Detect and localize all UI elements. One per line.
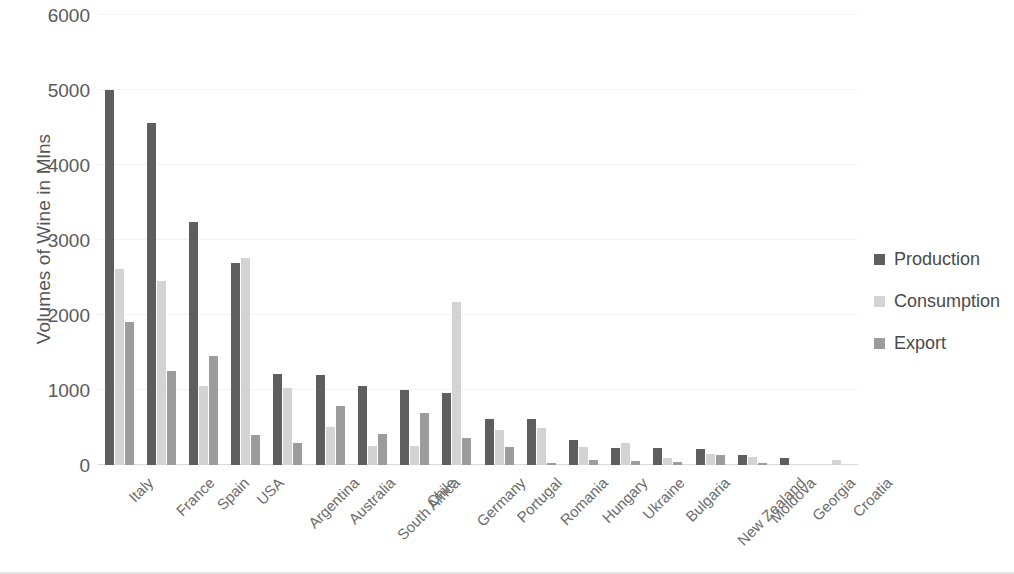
bar — [462, 438, 471, 465]
x-axis-label: Croatia — [849, 474, 895, 520]
bar — [273, 374, 282, 466]
bar-group — [351, 15, 393, 465]
bar — [611, 448, 620, 465]
bar — [780, 458, 789, 466]
bar-group — [478, 15, 520, 465]
bar-group — [562, 15, 604, 465]
x-label-cell: New Zealand — [689, 468, 731, 574]
bar-group — [605, 15, 647, 465]
bar — [505, 447, 514, 465]
bar — [420, 413, 429, 466]
x-axis-category-labels: ItalyFranceSpainUSAArgentinaAustraliaSou… — [98, 468, 858, 574]
bar — [358, 386, 367, 466]
x-label-cell: Georgia — [774, 468, 816, 574]
bar — [653, 448, 662, 465]
bar — [589, 460, 598, 465]
bar-group — [731, 15, 773, 465]
legend-swatch-icon — [874, 296, 885, 307]
bar — [368, 446, 377, 466]
bar — [527, 419, 536, 466]
bar-group — [225, 15, 267, 465]
legend-item[interactable]: Consumption — [874, 280, 1014, 322]
bar — [167, 371, 176, 465]
bar — [673, 462, 682, 465]
legend-label: Consumption — [894, 291, 1000, 312]
legend-swatch-icon — [874, 254, 885, 265]
bar-group — [689, 15, 731, 465]
x-label-cell: Hungary — [562, 468, 604, 574]
x-label-cell: Romania — [520, 468, 562, 574]
bar — [716, 455, 725, 466]
x-label-cell: Australia — [309, 468, 351, 574]
y-tick-label: 4000 — [28, 156, 90, 175]
bar-group — [436, 15, 478, 465]
bar — [231, 263, 240, 466]
bar — [316, 375, 325, 465]
legend-label: Export — [894, 333, 946, 354]
bar — [189, 222, 198, 465]
bar — [336, 406, 345, 465]
y-tick-label: 3000 — [28, 231, 90, 250]
x-label-cell: USA — [225, 468, 267, 574]
bar-group — [774, 15, 816, 465]
bar — [696, 449, 705, 465]
bar — [442, 393, 451, 465]
bar — [326, 427, 335, 465]
legend-item[interactable]: Export — [874, 322, 1014, 364]
x-label-cell: Germany — [436, 468, 478, 574]
bar — [663, 458, 672, 465]
y-tick-label: 1000 — [28, 381, 90, 400]
bar — [485, 419, 494, 466]
bar-group — [267, 15, 309, 465]
y-tick-label: 5000 — [28, 81, 90, 100]
bar — [293, 443, 302, 465]
y-tick-label: 0 — [28, 456, 90, 475]
x-label-cell: Moldova — [731, 468, 773, 574]
bar-group — [98, 15, 140, 465]
bar — [115, 269, 124, 466]
bar — [125, 322, 134, 465]
bar — [283, 388, 292, 465]
bar — [706, 454, 715, 465]
chart-legend: ProductionConsumptionExport — [874, 238, 1014, 364]
bar-group — [520, 15, 562, 465]
bar — [452, 302, 461, 465]
bar — [410, 446, 419, 465]
bar-group — [182, 15, 224, 465]
legend-swatch-icon — [874, 338, 885, 349]
legend-item[interactable]: Production — [874, 238, 1014, 280]
bar — [748, 457, 757, 465]
bar — [495, 430, 504, 465]
x-label-cell: Chile — [394, 468, 436, 574]
bar-group — [394, 15, 436, 465]
bar — [157, 281, 166, 465]
x-label-cell: South Africa — [351, 468, 393, 574]
bar — [738, 455, 747, 466]
bar-group — [140, 15, 182, 465]
bar — [758, 463, 767, 465]
bar-groups — [98, 15, 858, 465]
x-label-cell: Croatia — [816, 468, 858, 574]
x-label-cell: Portugal — [478, 468, 520, 574]
bar — [631, 461, 640, 465]
bar — [199, 386, 208, 466]
bar — [621, 443, 630, 465]
x-label-cell: France — [140, 468, 182, 574]
legend-label: Production — [894, 249, 980, 270]
bar — [547, 463, 556, 465]
bar — [579, 447, 588, 465]
y-axis-tick-labels: 0100020003000400050006000 — [20, 15, 90, 465]
bar — [147, 123, 156, 465]
bar — [569, 440, 578, 465]
x-label-cell: Argentina — [267, 468, 309, 574]
bar — [251, 435, 260, 465]
bar — [832, 460, 841, 465]
x-label-cell: Ukraine — [605, 468, 647, 574]
bar — [400, 390, 409, 465]
bar — [209, 356, 218, 466]
bar — [378, 434, 387, 466]
x-label-cell: Spain — [182, 468, 224, 574]
y-tick-label: 2000 — [28, 306, 90, 325]
y-tick-label: 6000 — [28, 6, 90, 25]
bar-group — [647, 15, 689, 465]
